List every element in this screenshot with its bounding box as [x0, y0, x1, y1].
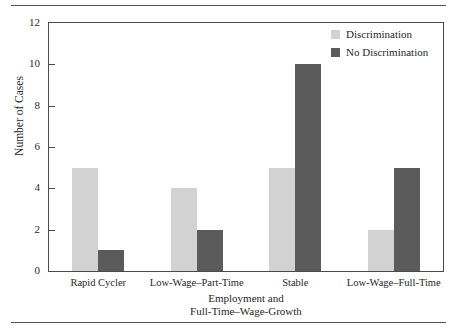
- y-axis-tick-label: 0: [14, 265, 40, 276]
- bar-no-discrimination: [295, 64, 321, 271]
- x-axis-tick-label: Low-Wage–Full-Time: [347, 277, 441, 289]
- legend-swatch-icon: [331, 48, 340, 57]
- bar-no-discrimination: [197, 230, 223, 271]
- bar-no-discrimination: [394, 168, 420, 271]
- y-axis-tick-label: 8: [14, 100, 40, 111]
- top-divider-rule: [11, 5, 446, 6]
- bottom-divider-rule: [11, 322, 446, 323]
- x-axis-title-line2: Full-Time–Wage-Growth: [48, 305, 444, 318]
- y-axis-tick-label: 6: [14, 141, 40, 152]
- x-axis-title: Employment and Full-Time–Wage-Growth: [48, 292, 444, 318]
- legend-item: No Discrimination: [331, 45, 428, 60]
- legend-swatch-icon: [331, 30, 340, 39]
- bar-chart-figure: Number of Cases 024681012 Rapid CyclerLo…: [0, 0, 457, 330]
- chart-legend: DiscriminationNo Discrimination: [331, 27, 428, 63]
- x-axis-tick-label: Rapid Cycler: [70, 277, 126, 289]
- y-axis-tick-label: 12: [14, 17, 40, 28]
- bar-discrimination: [171, 188, 197, 271]
- bar-discrimination: [368, 230, 394, 271]
- bar-discrimination: [72, 168, 98, 271]
- y-axis-tick-label: 10: [14, 58, 40, 69]
- y-axis-tick-label: 4: [14, 182, 40, 193]
- y-axis-tick-label: 2: [14, 224, 40, 235]
- bar-no-discrimination: [98, 250, 124, 271]
- legend-label: No Discrimination: [346, 45, 428, 60]
- x-axis-title-line1: Employment and: [208, 292, 283, 304]
- legend-label: Discrimination: [346, 27, 412, 42]
- x-axis-tick-label: Low-Wage–Part-Time: [150, 277, 244, 289]
- bar-discrimination: [269, 168, 295, 271]
- x-axis-tick-label: Stable: [282, 277, 308, 289]
- legend-item: Discrimination: [331, 27, 428, 42]
